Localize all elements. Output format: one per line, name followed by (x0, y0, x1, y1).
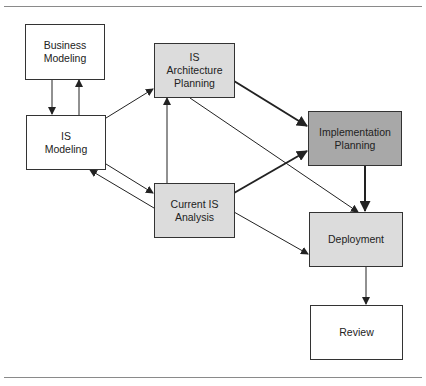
node-is-modeling: IS Modeling (26, 115, 106, 170)
node-label: Implementation Planning (319, 126, 391, 152)
edge-current-to-implementation (234, 151, 307, 193)
edge-is-modeling-to-architecture (106, 89, 153, 118)
node-deployment: Deployment (309, 212, 403, 267)
node-label: IS Architecture Planning (166, 51, 222, 90)
node-current-is-analysis: Current IS Analysis (154, 183, 235, 238)
node-implementation-planning: Implementation Planning (308, 111, 402, 166)
node-label: Review (339, 326, 373, 339)
edge-is-modeling-to-current (106, 164, 153, 193)
node-label: Deployment (328, 233, 384, 246)
edge-current-to-deployment (234, 212, 308, 254)
node-label: Current IS Analysis (171, 198, 219, 224)
node-business-modeling: Business Modeling (25, 24, 105, 80)
node-label: Business Modeling (44, 39, 87, 65)
node-review: Review (310, 305, 403, 360)
node-label: IS Modeling (45, 130, 88, 156)
edge-current-to-is-modeling (90, 170, 154, 208)
node-is-architecture-planning: IS Architecture Planning (154, 43, 235, 98)
edge-architecture-to-implementation (234, 81, 307, 126)
